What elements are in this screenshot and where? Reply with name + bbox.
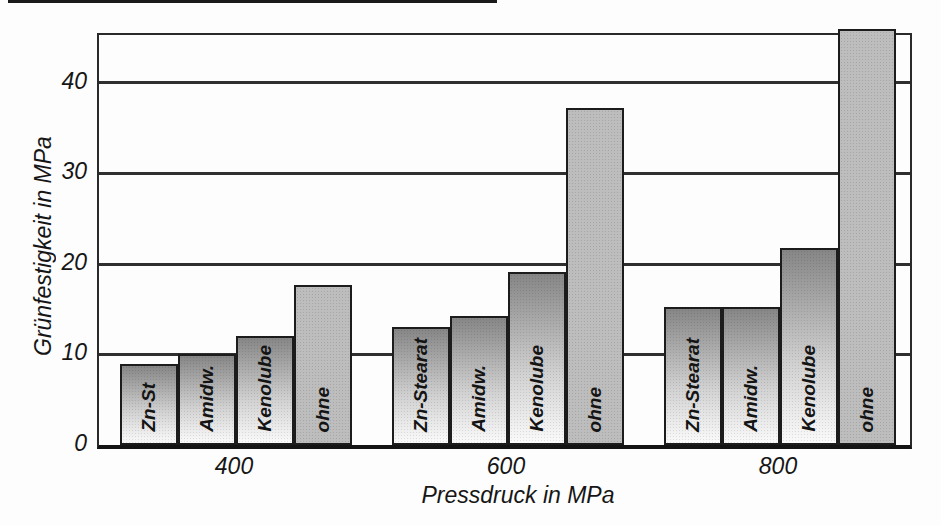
y-tick-label-40: 40 <box>0 68 87 94</box>
y-tick-label-0: 0 <box>0 430 87 456</box>
bar-label: Amidw. <box>469 365 489 432</box>
y-tick-label-20: 20 <box>0 249 87 275</box>
bar-600-kenolube: Kenolube <box>508 272 566 445</box>
bar-label: Kenolube <box>799 345 819 432</box>
bar-label: ohne <box>857 387 877 432</box>
bar-800-zn-stearat: Zn-Stearat <box>664 307 722 445</box>
y-tick-label-10: 10 <box>0 339 87 365</box>
scan-artifact-line <box>8 0 497 3</box>
plot-area: Zn-StAmidw.KenolubeohneZn-StearatAmidw.K… <box>97 33 912 449</box>
bar-400-amidw-: Amidw. <box>178 354 236 445</box>
bar-400-kenolube: Kenolube <box>236 336 294 446</box>
bar-600-zn-stearat: Zn-Stearat <box>392 327 450 445</box>
bar-400-ohne: ohne <box>294 285 352 445</box>
bar-label: Amidw. <box>741 365 761 432</box>
bar-label: Kenolube <box>255 345 275 432</box>
gridline-40 <box>99 81 910 84</box>
x-axis-title: Pressdruck in MPa <box>368 482 668 508</box>
bar-600-ohne: ohne <box>566 108 624 445</box>
bar-600-amidw-: Amidw. <box>450 316 508 445</box>
gridline-30 <box>99 172 910 175</box>
chart-figure: Grünfestigkeit in MPa Zn-StAmidw.Kenolub… <box>0 0 941 525</box>
bar-label: Kenolube <box>527 345 547 432</box>
x-tick-label-600: 600 <box>446 453 566 479</box>
bar-label: Zn-Stearat <box>411 338 431 432</box>
bar-label: Zn-St <box>139 383 159 432</box>
bar-800-ohne: ohne <box>838 29 896 445</box>
bar-400-zn-st: Zn-St <box>120 364 178 445</box>
bar-label: ohne <box>313 387 333 432</box>
bar-label: ohne <box>585 387 605 432</box>
bar-800-amidw-: Amidw. <box>722 307 780 445</box>
x-tick-label-800: 800 <box>718 453 838 479</box>
bar-label: Zn-Stearat <box>683 338 703 432</box>
bar-800-kenolube: Kenolube <box>780 248 838 445</box>
y-tick-label-30: 30 <box>0 158 87 184</box>
bar-label: Amidw. <box>197 365 217 432</box>
x-tick-label-400: 400 <box>174 453 294 479</box>
